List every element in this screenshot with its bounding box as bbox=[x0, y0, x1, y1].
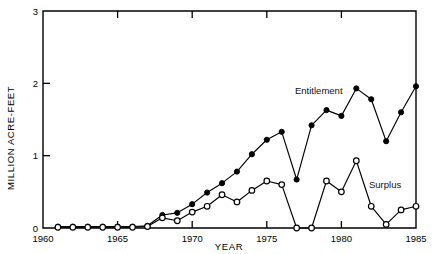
data-point bbox=[55, 224, 61, 230]
x-tick-label-1985: 1985 bbox=[405, 233, 426, 244]
data-point bbox=[324, 178, 330, 184]
data-point bbox=[413, 204, 419, 210]
data-point bbox=[339, 113, 344, 118]
data-point bbox=[249, 152, 254, 157]
data-point bbox=[115, 224, 121, 230]
data-point bbox=[294, 225, 300, 231]
data-point bbox=[219, 192, 225, 198]
plot-frame bbox=[43, 11, 416, 228]
data-point bbox=[145, 224, 151, 230]
y-tick-label-3: 3 bbox=[33, 6, 38, 17]
data-point bbox=[384, 139, 389, 144]
data-point bbox=[190, 202, 195, 207]
data-point bbox=[249, 188, 255, 194]
data-point bbox=[174, 218, 180, 224]
x-tick-label-1975: 1975 bbox=[256, 233, 277, 244]
data-point bbox=[294, 177, 299, 182]
data-point bbox=[234, 169, 239, 174]
x-tick-label-1960: 1960 bbox=[32, 233, 53, 244]
data-point bbox=[189, 209, 195, 215]
series-entitlement bbox=[55, 84, 418, 230]
data-point bbox=[354, 86, 359, 91]
data-point bbox=[383, 222, 389, 228]
data-point bbox=[205, 190, 210, 195]
y-tick-label-0: 0 bbox=[33, 223, 38, 234]
data-point bbox=[264, 137, 269, 142]
data-point bbox=[309, 225, 315, 231]
data-point bbox=[279, 129, 284, 134]
data-point bbox=[324, 108, 329, 113]
y-axis-tick-labels: 0123 bbox=[33, 6, 38, 234]
data-point bbox=[264, 178, 270, 184]
data-point bbox=[398, 110, 403, 115]
line-chart: 0123 196019651970197519801985 MILLION AC… bbox=[0, 0, 440, 254]
data-point bbox=[100, 224, 106, 230]
data-point bbox=[309, 123, 314, 128]
y-axis-ticks bbox=[43, 83, 50, 155]
chart-figure: 0123 196019651970197519801985 MILLION AC… bbox=[0, 0, 440, 254]
x-axis-ticks bbox=[118, 11, 342, 228]
series-line-entitlement bbox=[58, 86, 416, 226]
x-tick-label-1980: 1980 bbox=[331, 233, 352, 244]
y-axis-title: MILLION ACRE-FEET bbox=[5, 86, 16, 190]
y-tick-label-1: 1 bbox=[33, 150, 38, 161]
data-point bbox=[175, 210, 180, 215]
entitlement-series-label: Entitlement bbox=[295, 85, 343, 96]
data-point bbox=[279, 182, 285, 188]
data-point bbox=[398, 207, 404, 213]
x-tick-label-1965: 1965 bbox=[107, 233, 128, 244]
data-point bbox=[204, 204, 210, 210]
x-tick-label-1970: 1970 bbox=[182, 233, 203, 244]
y-tick-label-2: 2 bbox=[33, 78, 38, 89]
data-point bbox=[70, 224, 76, 230]
data-point bbox=[234, 199, 240, 205]
data-point bbox=[368, 204, 374, 210]
data-point bbox=[413, 84, 418, 89]
data-point bbox=[160, 215, 166, 221]
surplus-series-label: Surplus bbox=[369, 179, 401, 190]
data-point bbox=[369, 97, 374, 102]
x-axis-title: YEAR bbox=[215, 241, 243, 252]
data-point bbox=[85, 224, 91, 230]
data-point bbox=[339, 189, 345, 195]
data-point bbox=[354, 158, 360, 164]
data-series-layer bbox=[55, 84, 419, 231]
data-point bbox=[219, 181, 224, 186]
data-point bbox=[130, 224, 136, 230]
